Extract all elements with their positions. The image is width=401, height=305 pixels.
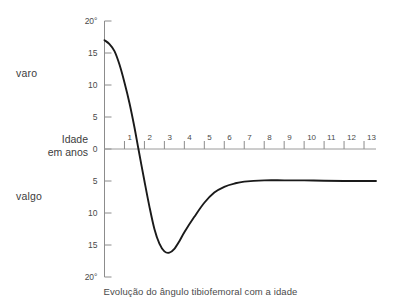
x-tick-label: 12	[347, 133, 356, 142]
x-axis-tick-labels: 12345678910111213	[127, 133, 376, 142]
y-tick-label: 10	[88, 208, 98, 218]
x-tick-label: 2	[147, 133, 152, 142]
y-tick-label: 5	[93, 112, 98, 122]
x-tick-label: 13	[367, 133, 376, 142]
y-tick-label: 0	[93, 144, 98, 154]
x-tick-label: 10	[307, 133, 316, 142]
y-tick-label: 5	[93, 176, 98, 186]
y-tick-label: 20°	[85, 272, 98, 282]
y-tick-label: 20°	[85, 16, 98, 26]
x-axis-ticks	[124, 141, 364, 149]
chart-figure: 20°1510505101520° 12345678910111213 varo…	[0, 0, 401, 305]
y-tick-label: 15	[88, 240, 98, 250]
x-tick-label: 9	[287, 133, 292, 142]
x-tick-label: 7	[247, 133, 252, 142]
x-axis-title: Idade em anos	[0, 133, 88, 159]
x-tick-label: 11	[327, 133, 336, 142]
y-tick-label: 15	[88, 48, 98, 58]
varus-region-label: varo	[16, 67, 37, 79]
figure-caption: Evolução do ângulo tibiofemoral com a id…	[0, 286, 401, 297]
x-tick-label: 1	[127, 133, 132, 142]
x-tick-label: 8	[267, 133, 272, 142]
x-axis-title-line1: Idade	[0, 133, 88, 146]
y-tick-label: 10	[88, 80, 98, 90]
tibiofemoral-angle-curve	[105, 40, 377, 253]
x-tick-label: 4	[187, 133, 192, 142]
x-axis-title-line2: em anos	[0, 146, 88, 159]
valgus-region-label: valgo	[16, 190, 42, 202]
x-tick-label: 3	[167, 133, 172, 142]
x-tick-label: 6	[227, 133, 232, 142]
x-tick-label: 5	[207, 133, 212, 142]
